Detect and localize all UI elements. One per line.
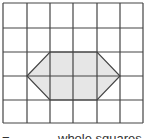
- grid-lines: [3, 3, 143, 123]
- caption: = whole squares: [0, 131, 144, 139]
- caption-text: whole squares: [58, 131, 142, 139]
- grid-diagram: [0, 0, 144, 130]
- equals-sign: =: [2, 131, 10, 139]
